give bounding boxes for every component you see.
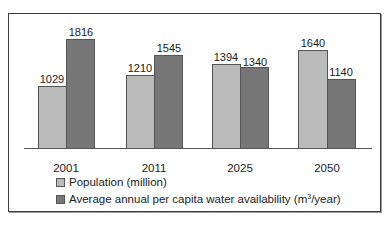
bar-population-2050: [298, 50, 328, 149]
legend-item-population: Population (million): [56, 176, 167, 188]
x-tick-2011: 2011: [134, 162, 174, 174]
value-label-water-2011: 1545: [149, 42, 189, 54]
legend-swatch-water: [56, 195, 65, 204]
bar-water-2050: [327, 79, 356, 149]
legend-label-water: Average annual per capita water availabi…: [69, 193, 341, 205]
bar-water-2025: [240, 67, 269, 149]
value-label-water-2050: 1140: [321, 66, 361, 78]
legend-item-water: Average annual per capita water availabi…: [56, 193, 341, 205]
legend-swatch-population: [56, 178, 65, 187]
legend-label-population: Population (million): [69, 176, 167, 188]
bar-population-2001: [38, 86, 67, 149]
x-tick-2050: 2050: [307, 162, 347, 174]
value-label-population-2011: 1210: [120, 62, 160, 74]
x-tick-2025: 2025: [220, 162, 260, 174]
bar-water-2001: [66, 39, 95, 149]
bar-population-2025: [212, 64, 241, 149]
bar-population-2011: [126, 75, 155, 149]
value-label-population-2001: 1029: [32, 73, 72, 85]
value-label-water-2001: 1816: [61, 26, 101, 38]
x-axis-line: [24, 148, 372, 149]
value-label-population-2050: 1640: [293, 37, 333, 49]
x-tick-2001: 2001: [46, 162, 86, 174]
value-label-water-2025: 1340: [235, 56, 275, 68]
